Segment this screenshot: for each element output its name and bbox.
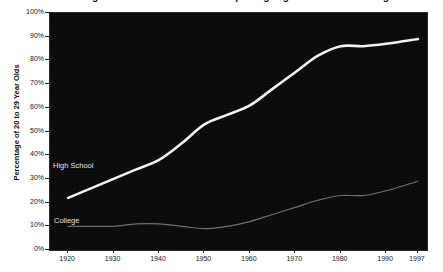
y-tick-mark [45,154,49,155]
x-tick-label: 1920 [47,255,87,262]
series-label-college: College [54,216,79,225]
y-tick-mark [45,36,49,37]
y-tick-mark [45,59,49,60]
plot-area [49,12,428,251]
x-tick-label: 1970 [274,255,314,262]
x-tick-label: 1940 [138,255,178,262]
x-tick-label: 1960 [229,255,269,262]
y-tick-mark [45,83,49,84]
y-tick-mark [45,12,49,13]
x-tick-label: 1950 [183,255,223,262]
y-tick-mark [45,107,49,108]
chart-screenshot: Percentage of 20 to 29 Year Olds Complet… [0,0,443,272]
series-line-college [68,181,418,228]
x-tick-label: 1997 [397,255,437,262]
y-tick-mark [45,178,49,179]
series-line-high-school [68,39,418,198]
plot-svg [50,13,427,250]
series-label-high-school: High School [53,161,93,170]
y-tick-mark [45,202,49,203]
y-tick-mark [45,249,49,250]
x-tick-label: 1930 [93,255,133,262]
y-tick-mark [45,225,49,226]
x-tick-label: 1980 [320,255,360,262]
y-tick-mark [45,131,49,132]
